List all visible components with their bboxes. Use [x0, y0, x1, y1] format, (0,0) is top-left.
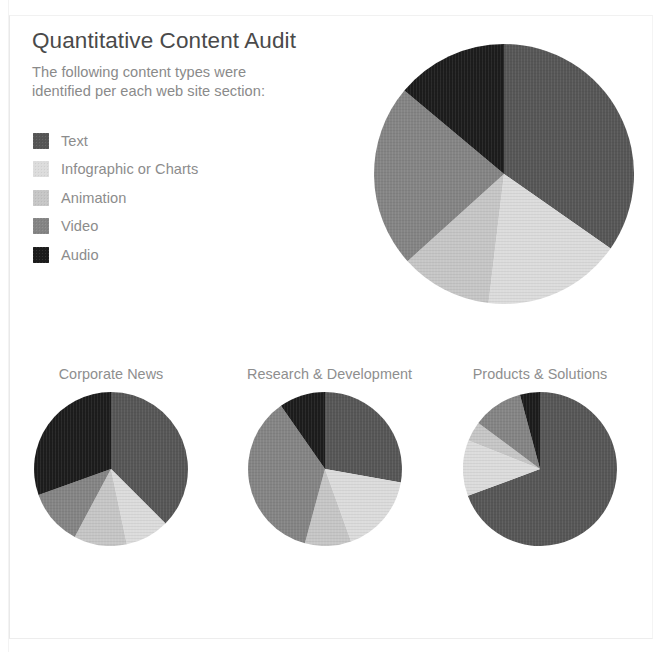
legend-label-animation: Animation: [61, 190, 126, 206]
legend-swatch-audio-icon: [33, 247, 49, 263]
research-development-pie-chart: [248, 392, 402, 546]
audit-slide: Quantitative Content Audit The following…: [0, 0, 654, 652]
legend-label-audio: Audio: [61, 247, 99, 263]
corporate-news-pie-svg: [34, 392, 188, 546]
page-title: Quantitative Content Audit: [32, 28, 372, 54]
products-solutions-pie-chart: [463, 392, 617, 546]
research-development-chart: Research & Development: [247, 366, 403, 550]
legend-item-text[interactable]: Text: [33, 128, 333, 153]
products-solutions-chart-title: Products & Solutions: [462, 366, 618, 382]
header-block: Quantitative Content Audit The following…: [32, 28, 372, 101]
corporate-news-chart-title: Corporate News: [33, 366, 189, 382]
legend-swatch-animation-icon: [33, 190, 49, 206]
products-solutions-pie-svg: [463, 392, 617, 546]
legend-item-infographic[interactable]: Infographic or Charts: [33, 157, 333, 182]
legend-item-animation[interactable]: Animation: [33, 185, 333, 210]
overall-pie-svg: [374, 44, 634, 304]
legend-label-infographic: Infographic or Charts: [61, 161, 198, 177]
corporate-news-chart: Corporate News: [33, 366, 189, 550]
research-development-slice-text[interactable]: [325, 392, 402, 482]
legend-swatch-video-icon: [33, 218, 49, 234]
legend-label-text: Text: [61, 133, 88, 149]
legend-item-audio[interactable]: Audio: [33, 242, 333, 267]
legend-item-video[interactable]: Video: [33, 214, 333, 239]
legend-swatch-infographic-icon: [33, 161, 49, 177]
legend-label-video: Video: [61, 218, 98, 234]
page-left-edge: [0, 0, 9, 652]
page-subtitle-line-2: identified per each web site section:: [32, 83, 265, 99]
chart-legend: TextInfographic or ChartsAnimationVideoA…: [33, 128, 333, 271]
products-solutions-chart: Products & Solutions: [462, 366, 618, 550]
page-subtitle-line-1: The following content types were: [32, 64, 246, 80]
corporate-news-pie-chart: [34, 392, 188, 546]
research-development-pie-svg: [248, 392, 402, 546]
research-development-chart-title: Research & Development: [247, 366, 403, 382]
page-subtitle: The following content types were identif…: [32, 63, 292, 102]
overall-pie-chart: [374, 44, 634, 304]
legend-swatch-text-icon: [33, 133, 49, 149]
